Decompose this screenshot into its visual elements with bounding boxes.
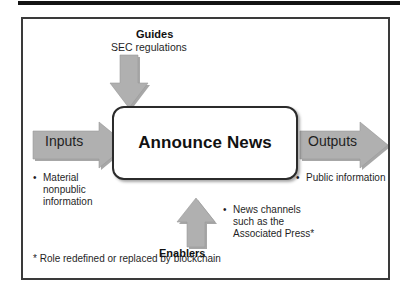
inputs-bullet-list: • Material nonpublic information bbox=[33, 172, 92, 208]
footnote: * Role redefined or replaced by blockcha… bbox=[33, 253, 221, 264]
process-label: Announce News bbox=[138, 133, 272, 153]
outputs-label: Outputs bbox=[308, 133, 357, 149]
bullet-marker-icon: • bbox=[223, 204, 233, 216]
process-box: Announce News bbox=[112, 106, 298, 180]
enablers-arrow-up-icon bbox=[172, 198, 220, 250]
list-item: • News channels such as the Associated P… bbox=[223, 204, 314, 240]
inputs-bullet-text: Material nonpublic information bbox=[43, 172, 92, 208]
enablers-bullet-list: • News channels such as the Associated P… bbox=[223, 204, 314, 240]
outputs-bullet-list: • Public information bbox=[296, 172, 385, 184]
enablers-bullet-text: News channels such as the Associated Pre… bbox=[233, 204, 314, 240]
bullet-marker-icon: • bbox=[296, 172, 306, 184]
guides-title: Guides bbox=[136, 28, 173, 40]
guides-arrow-down-icon bbox=[105, 55, 153, 111]
list-item: • Material nonpublic information bbox=[33, 172, 92, 208]
top-divider-rule bbox=[18, 1, 400, 5]
list-item: • Public information bbox=[296, 172, 385, 184]
inputs-label: Inputs bbox=[45, 133, 83, 149]
outputs-bullet-text: Public information bbox=[306, 172, 385, 184]
bullet-marker-icon: • bbox=[33, 172, 43, 184]
guides-detail: SEC regulations bbox=[111, 41, 187, 53]
